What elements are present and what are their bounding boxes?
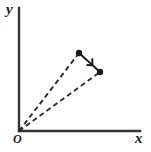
- diagram-canvas: [0, 0, 151, 152]
- vector-diagram-figure: y x O: [0, 0, 151, 152]
- origin-label: O: [13, 133, 22, 145]
- position-vector-2: [19, 72, 100, 131]
- point-marker-1: [76, 50, 82, 56]
- x-axis-label: x: [135, 131, 143, 146]
- point-marker-2: [97, 69, 103, 75]
- position-vector-1: [19, 53, 79, 131]
- y-axis-label: y: [6, 2, 13, 17]
- displacement-vector-line: [79, 53, 100, 72]
